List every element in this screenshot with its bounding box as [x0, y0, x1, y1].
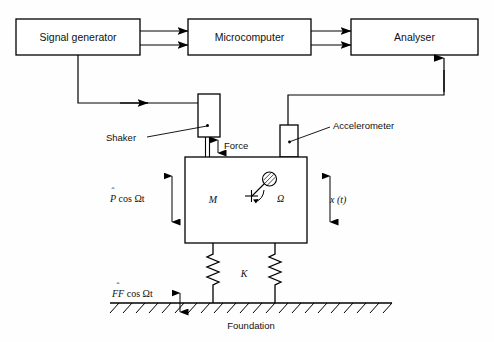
foundation-ground: [110, 303, 392, 313]
spring-right: [269, 243, 281, 303]
shaker-label: Shaker: [106, 132, 136, 143]
shaker-push-rod: [206, 137, 210, 157]
instrument-label-analyser: Analyser: [394, 31, 435, 43]
excitation-force-label: ˆP cos Ωt: [110, 193, 145, 204]
displacement-label: x (t): [330, 194, 346, 205]
spring-left: [207, 243, 219, 303]
instrument-label-signal-generator: Signal generator: [39, 31, 116, 43]
rotation-rate-label: Ω: [277, 193, 284, 204]
transmitted-force-label: ˆFF cos Ωt: [112, 288, 153, 299]
diagram-canvas: Signal generator Microcomputer Analyser …: [0, 0, 494, 342]
force-label: Force: [224, 140, 248, 151]
mass-block[interactable]: [185, 157, 307, 243]
transmitted-force-hat: ˆ: [117, 282, 120, 291]
foundation-label: Foundation: [227, 320, 275, 331]
excitation-force-base: ˆP: [110, 193, 116, 204]
transmitted-force-base: ˆFF: [112, 288, 124, 299]
instrument-label-microcomputer: Microcomputer: [215, 31, 284, 43]
transmitted-force-rest: cos Ωt: [124, 288, 153, 299]
shaker-body[interactable]: [198, 94, 220, 137]
schematic-svg: [0, 0, 494, 342]
stiffness-symbol-label: K: [241, 268, 248, 279]
wire-accelerometer-to-analyser: [288, 58, 444, 125]
excitation-force-rest: cos Ωt: [116, 193, 145, 204]
mass-symbol-label: M: [209, 194, 217, 205]
excitation-force-hat: ˆ: [112, 187, 115, 196]
accelerometer-label: Accelerometer: [333, 120, 394, 131]
wire-signal-generator-to-shaker: [78, 55, 198, 103]
